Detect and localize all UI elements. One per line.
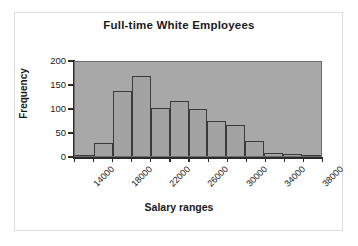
x-tick-mark xyxy=(131,158,132,162)
x-tick-mark xyxy=(284,158,285,162)
bar-slot xyxy=(245,62,264,156)
y-tick-label: 0 xyxy=(36,151,66,162)
x-tick-mark xyxy=(322,158,323,162)
bar xyxy=(189,109,208,156)
bar xyxy=(94,143,113,156)
bar xyxy=(132,76,151,156)
bar xyxy=(226,125,245,156)
bar xyxy=(151,108,170,156)
plot-area xyxy=(74,61,322,157)
bar-slot xyxy=(170,62,189,156)
x-tick-mark xyxy=(265,158,266,162)
bar xyxy=(245,141,264,156)
x-tick-mark xyxy=(150,158,151,162)
bar-slot xyxy=(75,62,94,156)
bar xyxy=(264,153,283,156)
bar xyxy=(302,155,321,156)
bar-slot xyxy=(207,62,226,156)
bar-slot xyxy=(189,62,208,156)
y-tick-label-wrap: 100 xyxy=(30,103,66,115)
bar xyxy=(75,155,94,156)
x-tick-mark xyxy=(169,158,170,162)
x-tick-mark xyxy=(93,158,94,162)
y-tick-label: 100 xyxy=(36,103,66,114)
y-tick-label: 200 xyxy=(36,55,66,66)
chart-title: Full-time White Employees xyxy=(0,19,358,31)
x-tick-mark xyxy=(74,158,75,162)
y-tick-label-wrap: 50 xyxy=(30,127,66,139)
bar xyxy=(113,91,132,156)
bar xyxy=(207,121,226,156)
x-axis-title: Salary ranges xyxy=(0,201,358,213)
bar-slot xyxy=(151,62,170,156)
y-tick-label-wrap: 150 xyxy=(30,79,66,91)
y-tick-label-wrap: 0 xyxy=(30,151,66,163)
x-axis-line xyxy=(73,157,323,159)
bar-series xyxy=(75,62,321,156)
y-axis-title: Frequency xyxy=(18,49,29,139)
y-tick-label-wrap: 200 xyxy=(30,55,66,67)
bar-slot xyxy=(94,62,113,156)
x-tick-mark xyxy=(227,158,228,162)
y-tick-label: 150 xyxy=(36,79,66,90)
bar-slot xyxy=(302,62,321,156)
x-tick-mark xyxy=(246,158,247,162)
x-tick-mark xyxy=(208,158,209,162)
bar-slot xyxy=(264,62,283,156)
bar-slot xyxy=(226,62,245,156)
bar-slot xyxy=(283,62,302,156)
bar xyxy=(283,154,302,156)
x-tick-mark xyxy=(188,158,189,162)
y-tick-label: 50 xyxy=(36,127,66,138)
chart-figure: Full-time White Employees 050100150200 F… xyxy=(0,0,358,246)
bar-slot xyxy=(132,62,151,156)
x-tick-mark xyxy=(303,158,304,162)
bar-slot xyxy=(113,62,132,156)
bar xyxy=(170,101,189,156)
x-tick-mark xyxy=(112,158,113,162)
